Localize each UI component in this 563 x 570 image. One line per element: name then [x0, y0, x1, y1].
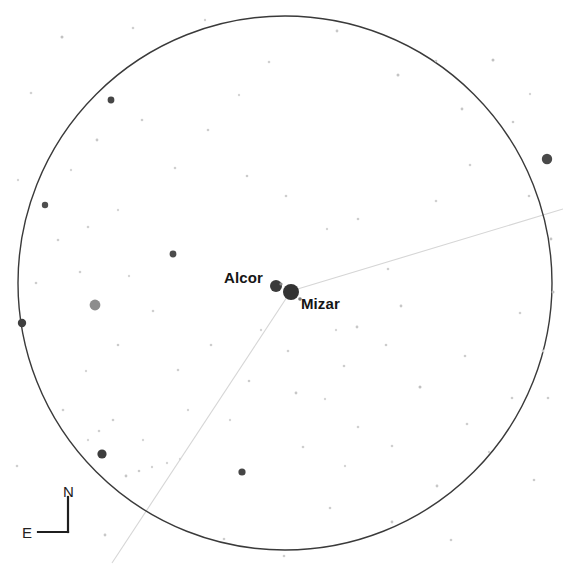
star-dot: [466, 423, 469, 426]
star-dot: [450, 539, 453, 542]
star-dot: [42, 202, 48, 208]
star-dot: [287, 350, 290, 353]
star-dot: [17, 179, 19, 181]
star-dot: [528, 195, 531, 198]
star-dot: [207, 129, 210, 132]
star-dot: [387, 268, 390, 271]
star-dot: [336, 30, 339, 33]
star-dot: [79, 271, 82, 274]
star-dot: [112, 419, 115, 422]
star-dot: [469, 164, 472, 167]
star-dot: [174, 167, 177, 170]
star-dot: [177, 369, 180, 372]
star-dot: [238, 94, 240, 96]
star-dot: [90, 300, 101, 311]
star-dot: [279, 282, 282, 285]
star-dot: [385, 344, 388, 347]
star-dot: [187, 409, 189, 411]
star-dot: [170, 251, 177, 258]
star-dot: [246, 175, 249, 178]
star-dot: [260, 329, 262, 331]
star-dot: [547, 397, 550, 400]
star-dot: [70, 169, 72, 171]
star-dot: [62, 409, 65, 412]
star-dot: [132, 27, 135, 30]
star-dot: [511, 397, 514, 400]
star-chart-canvas: Alcor Mizar N E: [0, 0, 563, 570]
star-dot: [248, 380, 251, 383]
star-dot: [435, 60, 438, 63]
star-dot: [204, 19, 206, 21]
star-dot: [152, 310, 155, 313]
star-dot: [344, 465, 346, 467]
star-dot: [96, 139, 99, 142]
star-dot: [357, 426, 360, 429]
star-dot: [552, 291, 555, 294]
fov-boundary-circle: [18, 16, 552, 550]
star-dot: [97, 449, 106, 458]
star-dot: [223, 538, 226, 541]
star-dot: [436, 485, 439, 488]
star-dot: [270, 280, 282, 292]
star-dot: [519, 312, 522, 315]
star-dot: [285, 195, 288, 198]
compass-north-label: N: [63, 484, 74, 499]
star-dot: [87, 226, 90, 229]
star-dot: [550, 238, 553, 241]
star-dot: [142, 439, 144, 441]
star-dot: [16, 465, 19, 468]
star-dot: [326, 228, 328, 230]
star-dot: [529, 93, 531, 95]
star-dot: [166, 462, 168, 464]
star-dot: [229, 419, 231, 421]
star-dot: [391, 445, 394, 448]
star-dot: [35, 282, 38, 285]
star-dot: [18, 319, 26, 327]
star-dot: [104, 534, 107, 537]
star-dot: [542, 350, 545, 353]
star-dot: [117, 344, 120, 347]
star-dot: [356, 326, 359, 329]
star-dot: [512, 121, 515, 124]
star-dot: [357, 218, 360, 221]
compass-rose: [38, 497, 68, 532]
star-dot: [464, 355, 467, 358]
star-dot: [324, 398, 326, 400]
compass-east-label: E: [22, 525, 32, 540]
star-dot: [179, 458, 181, 460]
star-dot: [61, 36, 64, 39]
star-dot: [117, 209, 119, 211]
constellation-lines: [112, 209, 563, 563]
star-dot: [397, 74, 400, 77]
star-dot: [98, 430, 101, 433]
star-dot: [85, 370, 87, 372]
star-dot: [238, 468, 245, 475]
star-dot: [30, 92, 33, 95]
sky-field-svg: [0, 0, 563, 570]
star-dot: [295, 392, 298, 395]
star-dot: [461, 108, 464, 111]
star-dot: [419, 386, 422, 389]
star-dot: [435, 200, 438, 203]
star-dot: [400, 305, 403, 308]
constellation-line: [291, 209, 563, 291]
star-dot: [302, 446, 305, 449]
star-dot: [533, 479, 536, 482]
star-dot: [57, 239, 60, 242]
star-dot: [128, 275, 130, 277]
star-dot: [268, 61, 271, 64]
field-of-view-circle: [18, 16, 552, 550]
star-dot: [283, 284, 299, 300]
star-dot: [87, 439, 89, 441]
star-dot: [335, 329, 337, 331]
star-dot: [210, 344, 213, 347]
star-dot: [151, 466, 153, 468]
star-dot: [141, 119, 144, 122]
star-dot: [125, 475, 128, 478]
star-dot: [492, 59, 495, 62]
star-dot: [488, 451, 490, 453]
star-label-alcor: Alcor: [224, 270, 263, 285]
field-stars: [16, 19, 555, 558]
star-dot: [391, 521, 394, 524]
star-dot: [138, 470, 141, 473]
